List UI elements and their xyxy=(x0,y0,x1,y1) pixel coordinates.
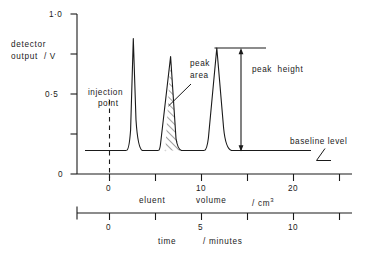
peak-height-label: peak height xyxy=(252,64,303,75)
y-axis xyxy=(71,14,78,174)
volume-tick-label-20: 20 xyxy=(288,183,298,194)
volume-tick-label-10: 10 xyxy=(196,183,206,194)
baseline-level-leader-line xyxy=(317,149,332,161)
x-axis-time xyxy=(77,207,352,221)
volume-unit-superscript: 3 xyxy=(270,197,273,203)
injection-point-label-line2: point xyxy=(98,98,119,110)
volume-tick-label-0: 0 xyxy=(106,183,111,194)
volume-axis-title-volume: volume xyxy=(196,195,227,206)
volume-axis-title-eluent: eluent xyxy=(139,195,166,206)
baseline-level-label: baseline level xyxy=(290,136,347,147)
y-axis-ticks xyxy=(71,14,78,174)
volume-unit-text: / cm xyxy=(252,199,270,208)
time-tick-label-10: 10 xyxy=(288,222,298,233)
peak-area-label-line1: peak xyxy=(190,58,210,70)
x-axis-volume xyxy=(77,174,352,181)
time-axis-title-time: time xyxy=(158,236,176,247)
time-tick-label-5: 5 xyxy=(198,222,203,233)
chromatogram-plot xyxy=(0,0,370,264)
x-axis-time-ticks xyxy=(110,213,340,220)
peak-area-label-line2: area xyxy=(190,70,209,82)
y-tick-label-0: 0 xyxy=(58,169,63,180)
y-axis-title-line1: detector xyxy=(11,39,46,51)
y-tick-label-0point5: 0·5 xyxy=(45,89,58,100)
time-axis-title-unit: / minutes xyxy=(203,236,243,247)
volume-axis-title-unit: / cm3 xyxy=(252,195,274,209)
y-axis-title-line2: output / V xyxy=(11,51,56,63)
injection-point-label-line1: injection xyxy=(88,87,123,99)
y-tick-label-1: 1·0 xyxy=(49,9,62,20)
chromatogram-figure: 1·0 0·5 0 detector output / V 0 10 20 el… xyxy=(0,0,370,264)
time-tick-label-0: 0 xyxy=(106,222,111,233)
x-axis-volume-ticks xyxy=(110,174,340,181)
